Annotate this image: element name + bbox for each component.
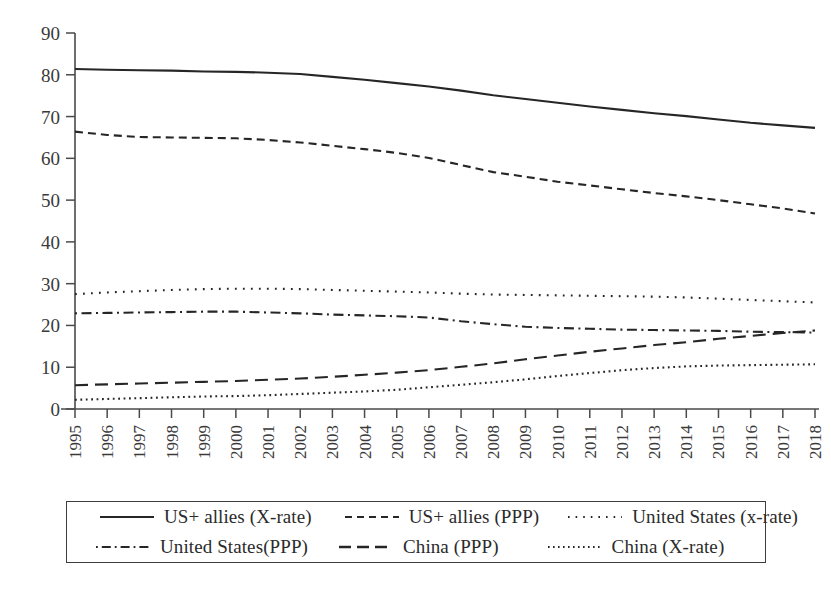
y-tick-label: 50 [41, 190, 60, 211]
legend-item-us-allies-ppp[interactable]: US+ allies (PPP) [344, 506, 540, 528]
x-tick-label: 1995 [66, 425, 85, 459]
legend-label: China (PPP) [403, 536, 499, 558]
legend-item-china-xrate[interactable]: China (X-rate) [547, 536, 725, 558]
legend-label: US+ allies (X-rate) [164, 506, 312, 528]
legend-item-us-allies-xrate[interactable]: US+ allies (X-rate) [99, 506, 312, 528]
series-line-united-states-x-rate [75, 289, 815, 303]
series-line-china-ppp [75, 330, 815, 385]
x-tick-label: 2018 [806, 425, 825, 459]
x-tick-label: 2005 [388, 425, 407, 459]
x-tick-label: 2017 [774, 425, 793, 460]
legend-item-united-states-ppp[interactable]: United States(PPP) [95, 536, 308, 558]
series-line-us-allies-ppp [75, 132, 815, 214]
x-tick-label: 2004 [356, 425, 375, 460]
legend-item-united-states-xrate[interactable]: United States (x-rate) [567, 506, 798, 528]
x-tick-label: 1996 [98, 425, 117, 459]
series-line-united-states-ppp [75, 312, 815, 333]
x-tick-label: 2002 [291, 425, 310, 459]
y-tick-label: 60 [41, 148, 60, 169]
x-tick-label: 2009 [516, 425, 535, 459]
x-tick-label: 1999 [195, 425, 214, 459]
line-chart-plot: 0102030405060708090199519961997199819992… [0, 0, 831, 500]
x-tick-label: 2013 [645, 425, 664, 459]
legend-swatch-longdash-icon [338, 540, 394, 554]
y-tick-label: 80 [41, 65, 60, 86]
legend-item-china-ppp[interactable]: China (PPP) [338, 536, 499, 558]
x-tick-label: 2010 [549, 425, 568, 459]
x-tick-label: 2001 [259, 425, 278, 459]
legend-swatch-solid-icon [99, 510, 155, 524]
legend-label: United States(PPP) [160, 536, 308, 558]
y-tick-label: 40 [41, 232, 60, 253]
y-tick-label: 0 [51, 399, 61, 420]
chart-legend: US+ allies (X-rate) US+ allies (PPP) Uni… [66, 501, 766, 563]
x-tick-label: 2014 [677, 425, 696, 460]
x-tick-label: 2012 [613, 425, 632, 459]
x-tick-label: 2000 [227, 425, 246, 459]
y-tick-label: 20 [41, 315, 60, 336]
legend-swatch-dashdot-icon [95, 540, 151, 554]
x-tick-label: 2003 [323, 425, 342, 459]
legend-label: China (X-rate) [612, 536, 725, 558]
x-tick-label: 1998 [163, 425, 182, 459]
legend-swatch-dotted-icon [567, 510, 623, 524]
legend-swatch-finedot-icon [547, 540, 603, 554]
legend-label: United States (x-rate) [632, 506, 798, 528]
x-tick-label: 2008 [484, 425, 503, 459]
y-tick-label: 30 [41, 274, 60, 295]
x-tick-label: 2006 [420, 425, 439, 459]
legend-swatch-dashed-icon [344, 510, 400, 524]
legend-row-2: United States(PPP) China (PPP) China (X-… [81, 532, 751, 562]
legend-label: US+ allies (PPP) [409, 506, 540, 528]
x-tick-label: 2011 [581, 425, 600, 458]
y-tick-label: 90 [41, 23, 60, 44]
series-line-us-allies-x-rate [75, 69, 815, 128]
y-tick-label: 10 [41, 357, 60, 378]
x-tick-label: 2007 [452, 425, 471, 460]
chart-figure: 0102030405060708090199519961997199819992… [0, 0, 831, 594]
x-tick-label: 2015 [709, 425, 728, 459]
legend-row-1: US+ allies (X-rate) US+ allies (PPP) Uni… [81, 502, 751, 532]
x-tick-label: 2016 [742, 425, 761, 459]
x-tick-label: 1997 [130, 425, 149, 460]
y-tick-label: 70 [41, 107, 60, 128]
